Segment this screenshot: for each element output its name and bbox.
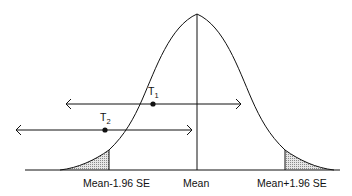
t2-interval xyxy=(16,125,192,135)
lower-bound-label: Mean-1.96 SE xyxy=(83,177,150,189)
t1-point xyxy=(150,101,155,106)
left-tail-shaded-region xyxy=(60,150,109,170)
t1-label: T1 xyxy=(148,85,159,100)
right-tail-shaded-region xyxy=(285,150,334,170)
t2-point xyxy=(102,127,107,132)
upper-bound-label: Mean+1.96 SE xyxy=(257,177,327,189)
mean-label: Mean xyxy=(183,177,209,189)
normal-curve-diagram xyxy=(0,0,352,196)
t2-label: T2 xyxy=(100,111,111,126)
t1-interval xyxy=(66,99,241,109)
